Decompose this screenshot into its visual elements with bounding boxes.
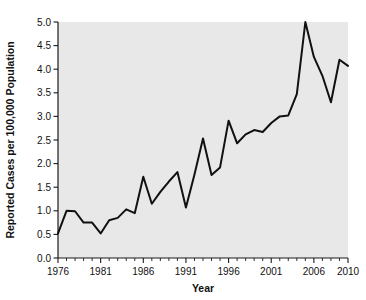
y-tick-label: 3.5: [37, 87, 51, 98]
x-axis-ticks: [58, 258, 348, 263]
y-tick-label: 0.5: [37, 229, 51, 240]
y-tick-label: 0.0: [37, 253, 51, 264]
x-tick-label: 1986: [132, 266, 155, 277]
y-tick-label: 2.0: [37, 158, 51, 169]
x-tick-label: 1991: [175, 266, 198, 277]
y-axis-tick-labels: 0.00.51.01.52.02.53.03.54.04.55.0: [37, 17, 51, 264]
y-tick-label: 4.5: [37, 40, 51, 51]
x-tick-label: 1976: [47, 266, 70, 277]
y-tick-label: 4.0: [37, 64, 51, 75]
x-tick-label: 2010: [337, 266, 360, 277]
x-axis-title: Year: [192, 282, 214, 294]
x-tick-label: 1996: [217, 266, 240, 277]
y-axis-ticks: [54, 22, 59, 258]
y-tick-label: 1.5: [37, 182, 51, 193]
x-axis-tick-labels: 19761981198619911996200120062010: [47, 266, 360, 277]
y-tick-label: 3.0: [37, 111, 51, 122]
line-chart-figure: 0.00.51.01.52.02.53.03.54.04.55.0 197619…: [0, 0, 366, 300]
x-tick-label: 1981: [90, 266, 113, 277]
x-tick-label: 2006: [303, 266, 326, 277]
y-axis-title: Reported Cases per 100,000 Population: [4, 41, 16, 238]
y-tick-label: 5.0: [37, 17, 51, 28]
y-tick-label: 1.0: [37, 205, 51, 216]
x-tick-label: 2001: [260, 266, 283, 277]
y-tick-label: 2.5: [37, 135, 51, 146]
chart-canvas: 0.00.51.01.52.02.53.03.54.04.55.0 197619…: [0, 0, 366, 300]
